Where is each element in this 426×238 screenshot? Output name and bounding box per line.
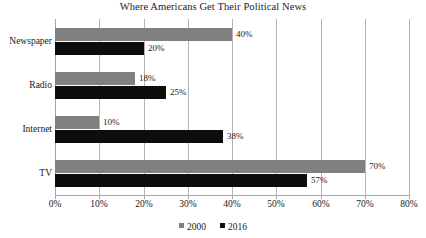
bar-value-label: 25% <box>170 86 187 99</box>
bar-group: 10%38% <box>55 116 409 143</box>
bar-newspaper-2016[interactable] <box>55 42 144 55</box>
bar-internet-2016[interactable] <box>55 130 223 143</box>
bar-value-label: 57% <box>311 174 328 187</box>
x-tick-label: 50% <box>256 199 296 209</box>
legend-entry-2016[interactable]: 2016 <box>220 221 247 232</box>
legend-swatch-icon <box>179 223 184 228</box>
x-tick-label: 20% <box>124 199 164 209</box>
bar-group: 70%57% <box>55 160 409 187</box>
bar-radio-2000[interactable] <box>55 72 135 85</box>
category-label-tv: TV <box>0 168 52 178</box>
legend-label: 2016 <box>228 222 247 232</box>
category-label-internet: Internet <box>0 124 52 134</box>
bar-group: 18%25% <box>55 72 409 99</box>
legend-swatch-icon <box>220 223 225 228</box>
bar-value-label: 70% <box>369 160 386 173</box>
legend-label: 2000 <box>187 222 206 232</box>
legend-entry-2000[interactable]: 2000 <box>179 221 206 232</box>
bar-tv-2000[interactable] <box>55 160 365 173</box>
bar-newspaper-2000[interactable] <box>55 28 232 41</box>
bar-tv-2016[interactable] <box>55 174 307 187</box>
bar-value-label: 18% <box>139 72 156 85</box>
bar-value-label: 10% <box>103 116 120 129</box>
x-tick-label: 0% <box>35 199 75 209</box>
plot-area: 40%20%18%25%10%38%70%57% <box>55 19 409 196</box>
category-label-radio: Radio <box>0 80 52 90</box>
bar-group: 40%20% <box>55 28 409 55</box>
x-tick-label: 10% <box>79 199 119 209</box>
x-tick-label: 30% <box>168 199 208 209</box>
x-tick-label: 40% <box>212 199 252 209</box>
x-tick-label: 70% <box>345 199 385 209</box>
bar-radio-2016[interactable] <box>55 86 166 99</box>
x-tick-label: 80% <box>389 199 426 209</box>
x-tick-label: 60% <box>301 199 341 209</box>
gridline <box>409 19 410 196</box>
bar-internet-2000[interactable] <box>55 116 99 129</box>
bar-value-label: 40% <box>236 28 253 41</box>
chart-legend: 20002016 <box>0 221 426 232</box>
bar-value-label: 38% <box>227 130 244 143</box>
category-label-newspaper: Newspaper <box>0 36 52 46</box>
bar-chart: Where Americans Get Their Political News… <box>0 0 426 238</box>
bar-value-label: 20% <box>148 42 165 55</box>
chart-title: Where Americans Get Their Political News <box>0 1 426 12</box>
